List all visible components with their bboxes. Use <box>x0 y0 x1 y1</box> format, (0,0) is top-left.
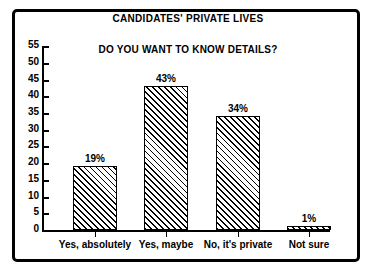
x-tick-0 <box>95 232 96 237</box>
y-tick-label: 0 <box>33 223 39 235</box>
y-tick-label: 30 <box>28 123 39 135</box>
bar-value-label: 43% <box>156 73 176 84</box>
x-tick-2 <box>238 232 239 237</box>
y-tick-label: 10 <box>28 190 39 202</box>
x-tick-3 <box>309 232 310 237</box>
bar-not-sure[interactable]: 1% <box>287 226 331 231</box>
y-tick-label: 40 <box>28 89 39 101</box>
y-tick-label: 25 <box>28 139 39 151</box>
bar-value-label: 1% <box>302 213 316 224</box>
bar-yes-maybe[interactable]: 43% <box>144 86 188 230</box>
plot-area: 0 5 10 15 20 25 30 35 <box>42 46 330 232</box>
y-tick-label: 20 <box>28 156 39 168</box>
x-axis-label-2: No, it's private <box>204 239 273 250</box>
chart-title: CANDIDATES' PRIVATE LIVES <box>0 13 376 24</box>
y-tick-label: 55 <box>28 39 39 51</box>
bar-value-label: 34% <box>228 103 248 114</box>
x-tick-1 <box>166 232 167 237</box>
chart-page: CANDIDATES' PRIVATE LIVES DO YOU WANT TO… <box>0 0 376 276</box>
x-axis-label-1: Yes, maybe <box>139 239 193 250</box>
y-axis-line <box>42 46 44 232</box>
y-tick-label: 50 <box>28 56 39 68</box>
y-tick-label: 45 <box>28 73 39 85</box>
x-axis-label-3: Not sure <box>289 239 330 250</box>
y-tick-label: 5 <box>33 206 39 218</box>
x-axis-label-0: Yes, absolutely <box>59 239 131 250</box>
bar-value-label: 19% <box>85 153 105 164</box>
x-axis-line <box>42 230 330 232</box>
y-tick-label: 15 <box>28 173 39 185</box>
bar-no-its-private[interactable]: 34% <box>216 116 260 230</box>
bar-yes-absolutely[interactable]: 19% <box>73 166 117 230</box>
y-tick-label: 35 <box>28 106 39 118</box>
